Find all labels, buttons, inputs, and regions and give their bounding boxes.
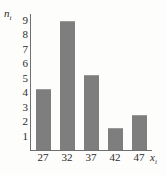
y-tick-label: 6: [16, 58, 28, 69]
y-tick-label: 5: [16, 73, 28, 84]
x-tick-label: 27: [31, 152, 55, 163]
y-tick-label: 4: [16, 87, 28, 98]
bar-series: [31, 14, 151, 150]
x-axis-tick-labels: 2732374247: [31, 152, 151, 168]
x-axis-label-subscript: i: [155, 158, 157, 166]
bar: [36, 89, 51, 150]
bar: [60, 21, 75, 150]
y-tick-label: 2: [16, 116, 28, 127]
bar-chart-figure: ni 987654321 2732374247 xi: [0, 0, 167, 175]
y-tick-label: 3: [16, 102, 28, 113]
y-tick-label: 8: [16, 29, 28, 40]
y-axis-label: ni: [4, 8, 11, 22]
y-axis-label-subscript: i: [10, 14, 12, 22]
bar: [132, 115, 147, 150]
x-tick-label: 32: [55, 152, 79, 163]
x-axis-label: xi: [150, 152, 157, 166]
x-tick-label: 47: [127, 152, 151, 163]
bar: [84, 75, 99, 150]
y-axis-tick-labels: 987654321: [14, 14, 28, 150]
bar: [108, 128, 123, 150]
y-tick-label: 1: [16, 131, 28, 142]
x-tick-label: 42: [103, 152, 127, 163]
x-tick-label: 37: [79, 152, 103, 163]
y-tick-label: 9: [16, 15, 28, 26]
y-tick-label: 7: [16, 44, 28, 55]
